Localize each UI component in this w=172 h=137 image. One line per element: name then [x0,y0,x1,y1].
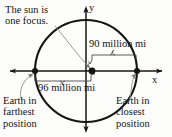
ninety-million-span-line [92,55,136,60]
earth-farthest-label: Earth in farthest position [3,95,37,129]
earth-closest-label: Earth in closest position [116,95,150,129]
sun-focus-leader-line [55,26,90,68]
sun-focus-point [89,68,96,75]
sun-focus-label: The sun is one focus. [5,4,48,27]
x-axis-label: x [152,74,157,85]
earth-closest-point [134,68,140,74]
ninety-million-left-arrow [89,60,93,64]
y-axis [83,6,88,133]
ninety-million-brace-tip [110,51,115,56]
earth-farthest-point [32,68,38,74]
ninety-million-measure-group [89,51,137,65]
orbit-diagram-figure: The sun is one focus. 90 million mi 96 m… [0,0,172,137]
ninetysix-million-span-line [35,76,91,81]
y-axis-label: y [89,2,94,13]
ninetysix-million-label: 96 million mi [38,82,95,93]
ninety-million-label: 90 million mi [89,38,146,49]
